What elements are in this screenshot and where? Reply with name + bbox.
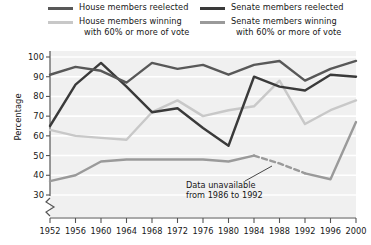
annotation-line2: from 1986 to 1992 xyxy=(186,190,263,200)
annotation-data-unavailable: Data unavailable from 1986 to 1992 xyxy=(186,180,263,201)
annotation-line1: Data unavailable xyxy=(186,180,263,190)
